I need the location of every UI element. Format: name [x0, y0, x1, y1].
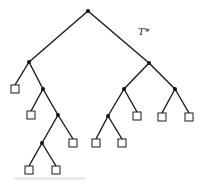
tree-edge: [96, 116, 108, 139]
leaf-node: [69, 139, 77, 147]
leaf-node: [185, 113, 193, 121]
internal-node: [56, 113, 60, 117]
scan-artifact: [14, 177, 86, 180]
internal-node: [40, 141, 44, 145]
tree-edge: [88, 11, 149, 63]
tree-edge: [42, 115, 58, 143]
internal-node: [27, 60, 31, 64]
tree-edge: [124, 89, 137, 112]
internal-node: [41, 87, 45, 91]
tree-internal-nodes: [27, 9, 177, 145]
tree-edge: [29, 11, 88, 62]
internal-node: [122, 87, 126, 91]
tree-edge: [58, 115, 73, 139]
leaf-node: [11, 85, 19, 93]
tree-edge: [108, 89, 124, 116]
leaf-node: [158, 113, 166, 121]
tree-edge: [124, 63, 149, 89]
leaf-node: [133, 112, 141, 120]
internal-node: [173, 87, 177, 91]
tree-edge: [162, 89, 175, 113]
tree-edge: [29, 62, 43, 89]
leaf-node: [52, 166, 60, 174]
leaf-node: [118, 139, 126, 147]
tree-label: T*: [138, 26, 150, 37]
tree-edge: [108, 116, 122, 139]
tree-edge: [175, 89, 189, 113]
tree-edge: [15, 62, 29, 85]
tree-diagram: T*: [0, 0, 201, 186]
leaf-node: [27, 111, 35, 119]
internal-node: [106, 114, 110, 118]
internal-node: [147, 61, 151, 65]
internal-node: [86, 9, 90, 13]
tree-edge: [31, 89, 43, 111]
leaf-node: [25, 166, 33, 174]
tree-edge: [149, 63, 175, 89]
leaf-node: [92, 139, 100, 147]
tree-edge: [43, 89, 58, 115]
tree-edge: [42, 143, 56, 166]
tree-edge: [29, 143, 42, 166]
